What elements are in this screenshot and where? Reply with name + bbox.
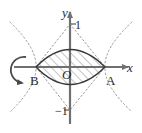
y-tick-label-positive-one: 1: [75, 19, 81, 31]
point-b-label: B: [30, 74, 39, 87]
figure-canvas: [0, 0, 142, 133]
rotation-arrow-icon: [11, 57, 26, 83]
y-tick-label-negative-one: −1: [55, 105, 68, 117]
y-axis-label: y: [62, 6, 68, 19]
origin-label: O: [62, 68, 71, 81]
x-axis-label: x: [127, 61, 133, 74]
point-a-label: A: [106, 74, 115, 87]
math-figure: y x O A B 1 −1: [0, 0, 142, 133]
